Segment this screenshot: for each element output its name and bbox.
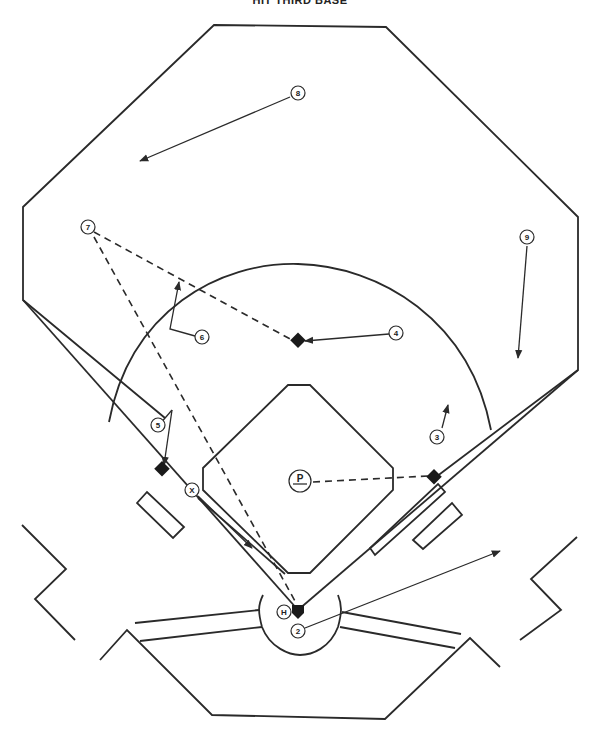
player-6: 6	[195, 330, 209, 344]
player-3: 3	[430, 430, 444, 444]
svg-text:9: 9	[525, 233, 530, 242]
walkway-left-bottom	[140, 627, 262, 641]
left-foul-line	[23, 300, 298, 610]
infield-grass-arc	[109, 264, 491, 430]
svg-text:7: 7	[86, 223, 91, 232]
player-9: 9	[520, 230, 534, 244]
svg-text:5: 5	[156, 421, 161, 430]
walkway-left-top	[135, 610, 259, 623]
throw-7-to-second	[94, 232, 292, 340]
player-8: 8	[291, 86, 305, 100]
player-5: 5	[151, 418, 165, 432]
arrow-x	[198, 496, 252, 548]
home-plate	[292, 605, 304, 619]
arrow-2	[305, 551, 500, 628]
baseball-field-diagram: 8 7 9 6 4 5 3 P X H 2	[0, 0, 600, 740]
arrow-6	[170, 282, 195, 336]
svg-text:X: X	[189, 486, 195, 495]
svg-text:H: H	[281, 608, 287, 617]
throw-pitcher-to-first	[313, 476, 428, 482]
dugout-right-box	[413, 503, 462, 549]
first-base	[426, 469, 442, 485]
svg-text:6: 6	[200, 333, 205, 342]
player-pitcher: P	[289, 470, 311, 492]
player-7: 7	[81, 220, 95, 234]
svg-text:3: 3	[435, 433, 440, 442]
arrow-8	[140, 97, 290, 161]
player-batter-runner: X	[185, 483, 199, 497]
player-2: 2	[291, 624, 305, 638]
backstop-boundary	[100, 630, 500, 719]
arrow-9	[518, 246, 527, 358]
svg-text:8: 8	[296, 89, 301, 98]
dugout-left-box	[137, 492, 184, 538]
svg-text:2: 2	[296, 627, 301, 636]
player-4: 4	[389, 326, 403, 340]
arrow-3	[442, 405, 448, 428]
second-base	[290, 333, 306, 349]
stands-right	[520, 537, 577, 640]
marker-home: H	[277, 605, 291, 619]
stands-left	[22, 525, 75, 640]
svg-text:4: 4	[394, 329, 399, 338]
arrow-4	[305, 334, 389, 341]
svg-text:P: P	[297, 473, 304, 484]
